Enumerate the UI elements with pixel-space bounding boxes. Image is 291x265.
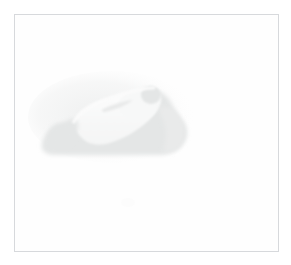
photo-frame <box>14 14 279 252</box>
image-canvas: Extremely faded, low-contrast photograph… <box>0 0 291 265</box>
paper-blemish <box>121 198 135 207</box>
motorcycle-silhouette-icon <box>15 15 278 251</box>
image-description: Extremely faded, low-contrast photograph… <box>0 0 1 1</box>
faded-photograph <box>15 15 278 251</box>
